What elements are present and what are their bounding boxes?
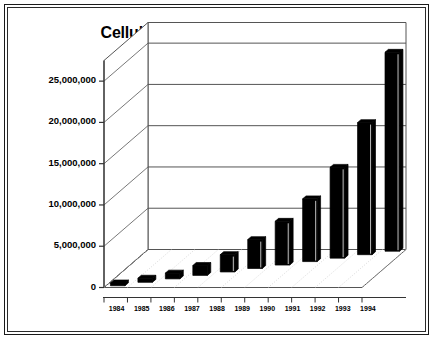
bar-1993 <box>358 120 376 255</box>
y-tick-label: 15,000,000 <box>48 158 96 168</box>
bar-1988 <box>220 252 238 272</box>
plot-area <box>0 0 433 339</box>
y-tick-label: 5,000,000 <box>54 240 96 250</box>
bar-1984 <box>110 280 128 286</box>
bar-1985 <box>138 275 156 282</box>
x-tick-label-1994: 1994 <box>352 305 384 313</box>
y-tick-label: 10,000,000 <box>48 199 96 209</box>
y-tick-label: 20,000,000 <box>48 116 96 126</box>
bar-1986 <box>165 270 183 279</box>
bar-1990 <box>275 218 293 265</box>
chart-figure: Cellular Subscribers in Millions 05,000,… <box>0 0 433 339</box>
bar-1994 <box>385 49 403 251</box>
y-tick-label: 0 <box>91 282 96 292</box>
bar-1987 <box>193 263 211 276</box>
y-tick-label: 25,000,000 <box>48 75 96 85</box>
bar-1989 <box>248 237 266 269</box>
bar-1991 <box>303 196 321 262</box>
bar-1992 <box>330 164 348 258</box>
